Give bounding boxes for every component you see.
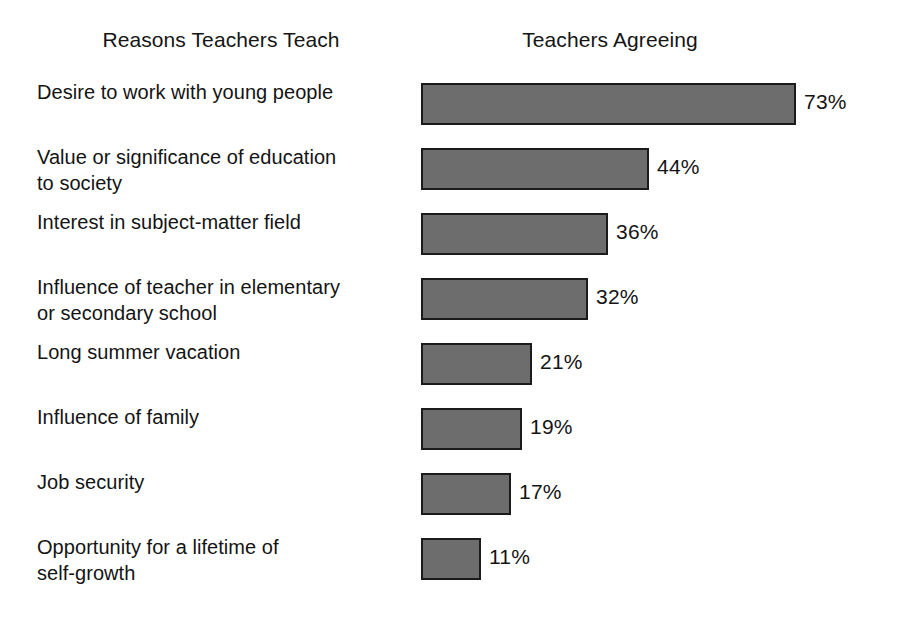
category-label-line: Desire to work with young people: [37, 79, 412, 105]
category-label-line: Influence of teacher in elementary: [37, 274, 412, 300]
category-label: Influence of family: [37, 404, 412, 430]
chart-row: Interest in subject-matter field36%: [0, 209, 899, 265]
bar: [421, 343, 532, 385]
category-label: Interest in subject-matter field: [37, 209, 412, 235]
bar-area: 44%: [421, 144, 891, 200]
category-label-line: Job security: [37, 469, 412, 495]
bar-value-label: 19%: [530, 410, 573, 444]
chart-row: Desire to work with young people73%: [0, 79, 899, 135]
category-label: Long summer vacation: [37, 339, 412, 365]
bar: [421, 408, 522, 450]
category-label-line: self-growth: [37, 560, 412, 586]
bar-value-label: 17%: [519, 475, 562, 509]
bar-area: 73%: [421, 79, 891, 135]
chart-row: Influence of family19%: [0, 404, 899, 460]
bar-value-label: 73%: [804, 85, 847, 119]
category-label-line: Influence of family: [37, 404, 412, 430]
bar-value-label: 36%: [616, 215, 659, 249]
chart-row: Opportunity for a lifetime ofself-growth…: [0, 534, 899, 590]
category-label-line: or secondary school: [37, 300, 412, 326]
category-label-line: Opportunity for a lifetime of: [37, 534, 412, 560]
bar-value-label: 44%: [657, 150, 700, 184]
bar-area: 11%: [421, 534, 891, 590]
bar-area: 17%: [421, 469, 891, 525]
bar-area: 19%: [421, 404, 891, 460]
category-label: Influence of teacher in elementaryor sec…: [37, 274, 412, 326]
bar: [421, 278, 588, 320]
bar-value-label: 32%: [596, 280, 639, 314]
category-label: Value or significance of educationto soc…: [37, 144, 412, 196]
chart-row: Long summer vacation21%: [0, 339, 899, 395]
chart-row: Job security17%: [0, 469, 899, 525]
category-label-line: to society: [37, 170, 412, 196]
category-label: Opportunity for a lifetime ofself-growth: [37, 534, 412, 586]
bar-value-label: 11%: [489, 540, 530, 574]
bar: [421, 83, 796, 125]
bar-value-label: 21%: [540, 345, 583, 379]
bar: [421, 148, 649, 190]
bar-area: 21%: [421, 339, 891, 395]
chart-row: Value or significance of educationto soc…: [0, 144, 899, 200]
category-label-line: Value or significance of education: [37, 144, 412, 170]
category-label-line: Long summer vacation: [37, 339, 412, 365]
bar: [421, 473, 511, 515]
category-label: Desire to work with young people: [37, 79, 412, 105]
chart-row: Influence of teacher in elementaryor sec…: [0, 274, 899, 330]
chart-rows: Desire to work with young people73%Value…: [0, 0, 899, 619]
bar: [421, 213, 608, 255]
bar-area: 32%: [421, 274, 891, 330]
bar-chart-figure: Reasons Teachers Teach Teachers Agreeing…: [0, 0, 899, 619]
category-label: Job security: [37, 469, 412, 495]
category-label-line: Interest in subject-matter field: [37, 209, 412, 235]
bar: [421, 538, 481, 580]
bar-area: 36%: [421, 209, 891, 265]
